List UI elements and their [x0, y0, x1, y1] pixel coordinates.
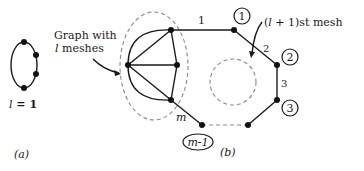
edge-label-3: 3: [281, 78, 287, 89]
edge-label-2: 2: [263, 43, 269, 54]
node: [168, 27, 174, 33]
edge-next: [248, 100, 277, 125]
node-label-2: 2: [287, 51, 294, 64]
node: [245, 122, 251, 128]
node: [21, 85, 27, 91]
graph-edge: [171, 65, 177, 100]
node-label-m-1: m-1: [187, 136, 208, 149]
node: [274, 62, 280, 68]
graph-edge: [128, 30, 171, 65]
node: [125, 62, 131, 68]
figure: l = 1 (a) Graph with l meshes (l + 1)st …: [0, 0, 364, 171]
node: [168, 97, 174, 103]
node: [274, 97, 280, 103]
node: [174, 62, 180, 68]
node: [33, 71, 39, 77]
graph-label-line1: Graph with: [54, 29, 117, 42]
graph-edge: [171, 30, 177, 65]
panel-a: l = 1 (a): [9, 39, 39, 161]
node-label-3: 3: [287, 102, 294, 115]
node: [231, 27, 237, 33]
panel-b-label: (b): [220, 146, 236, 159]
graph-edge: [128, 65, 171, 100]
single-mesh-loop: [11, 42, 37, 88]
edge-label-1: 1: [198, 14, 205, 27]
mesh-label: (l + 1)st mesh: [264, 16, 343, 29]
node: [33, 52, 39, 58]
node: [21, 39, 27, 45]
panel-a-label: (a): [14, 148, 29, 161]
caption-l-equals-1: l = 1: [9, 98, 37, 111]
node-label-1: 1: [239, 10, 246, 23]
new-mesh-circle: [210, 59, 256, 105]
node: [199, 122, 205, 128]
arrowhead-icon: [249, 51, 255, 58]
graph-label-line2: l meshes: [55, 42, 104, 55]
edge-label-m: m: [176, 111, 186, 124]
panel-b: Graph with l meshes (l + 1)st mesh: [54, 8, 343, 159]
